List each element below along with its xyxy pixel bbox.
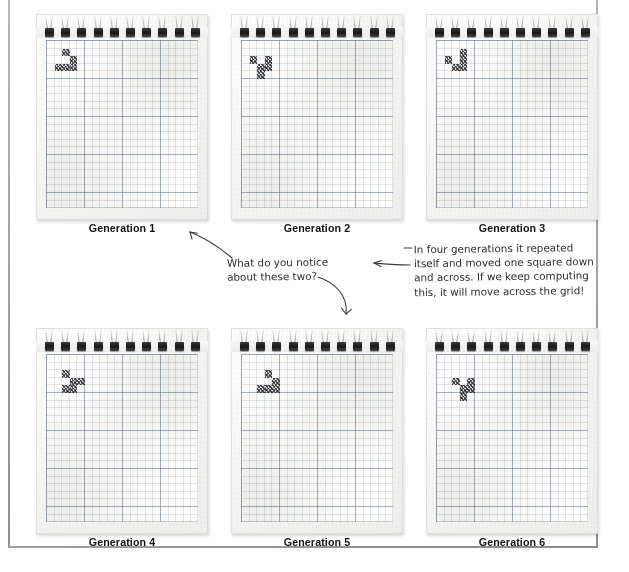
binding-ring [435, 342, 444, 351]
live-cell [460, 56, 468, 64]
binding-ring [256, 28, 265, 37]
binding-ring [337, 28, 346, 37]
live-cell [70, 56, 78, 64]
live-cell [265, 56, 273, 64]
binding-ring [370, 28, 379, 37]
binding-ring [61, 28, 70, 37]
live-cell [62, 64, 70, 72]
binding-ring [484, 342, 493, 351]
notepad-3: Generation 3 [426, 14, 598, 244]
binding-ring [548, 342, 557, 351]
live-cell [460, 49, 468, 57]
spiral-binding [36, 14, 208, 38]
binding-ring [321, 342, 330, 351]
live-cell [77, 378, 85, 386]
graph-sheet [46, 40, 198, 208]
binding-ring [321, 28, 330, 37]
binding-ring [516, 342, 525, 351]
binding-ring [175, 28, 184, 37]
binding-ring [77, 28, 86, 37]
binding-ring [77, 342, 86, 351]
annotation-right: In four generations it repeated itself a… [414, 240, 620, 299]
binding-ring [500, 28, 509, 37]
notepad-6: Generation 6 [426, 328, 598, 558]
live-cell [467, 378, 475, 386]
binding-ring [500, 342, 509, 351]
binding-ring [565, 342, 574, 351]
binding-ring [191, 342, 200, 351]
live-cell [452, 378, 460, 386]
binding-ring [240, 342, 249, 351]
live-cell [257, 64, 265, 72]
binding-ring [158, 28, 167, 37]
notepad-2: Generation 2 [231, 14, 403, 244]
graph-sheet [241, 354, 393, 522]
spiral-binding [231, 328, 403, 352]
live-cell [70, 385, 78, 393]
live-cell [62, 49, 70, 57]
notepad-caption: Generation 3 [432, 222, 592, 234]
notepad-caption: Generation 1 [42, 222, 202, 234]
binding-ring [451, 342, 460, 351]
binding-ring [45, 342, 54, 351]
binding-ring [142, 342, 151, 351]
binding-ring [142, 28, 151, 37]
binding-ring [289, 342, 298, 351]
binding-ring [565, 28, 574, 37]
binding-ring [370, 342, 379, 351]
live-cell [460, 385, 468, 393]
live-cell [460, 393, 468, 401]
live-cell [55, 64, 63, 72]
live-cell [265, 64, 273, 72]
notepad-caption: Generation 6 [432, 536, 592, 548]
binding-ring [110, 342, 119, 351]
live-cell [467, 385, 475, 393]
notepad-caption: Generation 4 [42, 536, 202, 548]
live-cell [452, 64, 460, 72]
spiral-binding [231, 14, 403, 38]
live-cell [265, 385, 273, 393]
binding-ring [305, 28, 314, 37]
binding-ring [484, 28, 493, 37]
binding-ring [532, 28, 541, 37]
spiral-binding [426, 328, 598, 352]
live-cell [70, 378, 78, 386]
binding-ring [256, 342, 265, 351]
grid-smudge-layer [241, 354, 393, 522]
binding-ring [126, 342, 135, 351]
binding-ring [516, 28, 525, 37]
binding-ring [467, 28, 476, 37]
binding-ring [532, 342, 541, 351]
notepad-caption: Generation 2 [237, 222, 397, 234]
binding-ring [353, 28, 362, 37]
binding-ring [61, 342, 70, 351]
live-cell [70, 64, 78, 72]
binding-ring [240, 28, 249, 37]
graph-sheet [436, 354, 588, 522]
live-cell [445, 56, 453, 64]
binding-ring [158, 342, 167, 351]
live-cell [265, 370, 273, 378]
spiral-binding [36, 328, 208, 352]
graph-sheet [46, 354, 198, 522]
notepad-1: Generation 1 [36, 14, 208, 244]
live-cell [272, 378, 280, 386]
binding-ring [337, 342, 346, 351]
binding-ring [191, 28, 200, 37]
live-cell [62, 370, 70, 378]
binding-ring [467, 342, 476, 351]
binding-ring [386, 28, 395, 37]
binding-ring [581, 342, 590, 351]
live-cell [257, 71, 265, 79]
live-cell [62, 385, 70, 393]
binding-ring [45, 28, 54, 37]
spiral-binding [426, 14, 598, 38]
binding-ring [305, 342, 314, 351]
binding-ring [386, 342, 395, 351]
graph-sheet [436, 40, 588, 208]
binding-ring [94, 28, 103, 37]
binding-ring [272, 28, 281, 37]
binding-ring [126, 28, 135, 37]
binding-ring [272, 342, 281, 351]
binding-ring [548, 28, 557, 37]
